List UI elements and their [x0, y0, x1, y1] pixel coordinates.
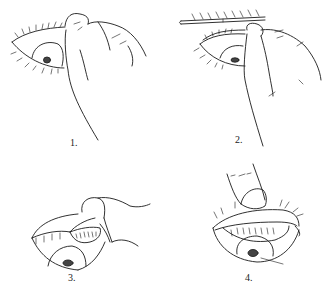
step-label: 4. — [245, 272, 253, 283]
panel-2: 2. — [165, 0, 330, 146]
applicator-placement-illustration — [165, 0, 330, 146]
step-label: 2. — [235, 134, 243, 145]
lid-folding-illustration — [0, 146, 165, 292]
panel-1: 1. — [0, 0, 165, 146]
panel-3: 3. — [0, 146, 165, 292]
step-label: 3. — [68, 272, 76, 283]
eyelid-grasp-illustration — [0, 0, 165, 146]
panel-4: 4. — [165, 146, 330, 292]
thumb-holding-everted-lid-illustration — [165, 146, 330, 292]
